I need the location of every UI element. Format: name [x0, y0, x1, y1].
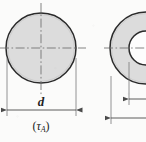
- engineering-cross-section-figure: d (τA): [0, 0, 146, 142]
- figure-drawing-canvas: [0, 0, 146, 142]
